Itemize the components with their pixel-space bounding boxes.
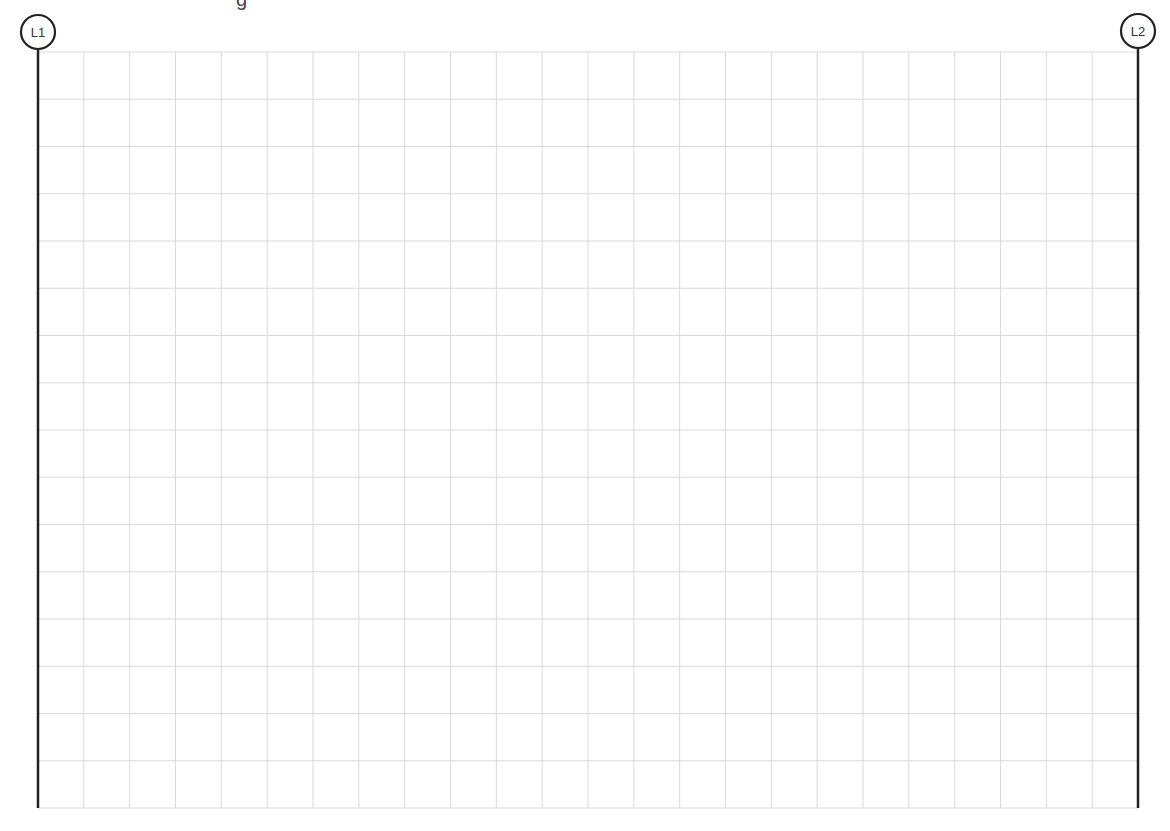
grid — [38, 52, 1138, 808]
gridline-label: L1 — [31, 25, 45, 40]
gridline-label: L2 — [1131, 24, 1145, 39]
gridline-l1: L1 — [21, 15, 55, 808]
gridline-l2: L2 — [1121, 14, 1155, 808]
grid-diagram: L1L2 — [0, 0, 1170, 831]
